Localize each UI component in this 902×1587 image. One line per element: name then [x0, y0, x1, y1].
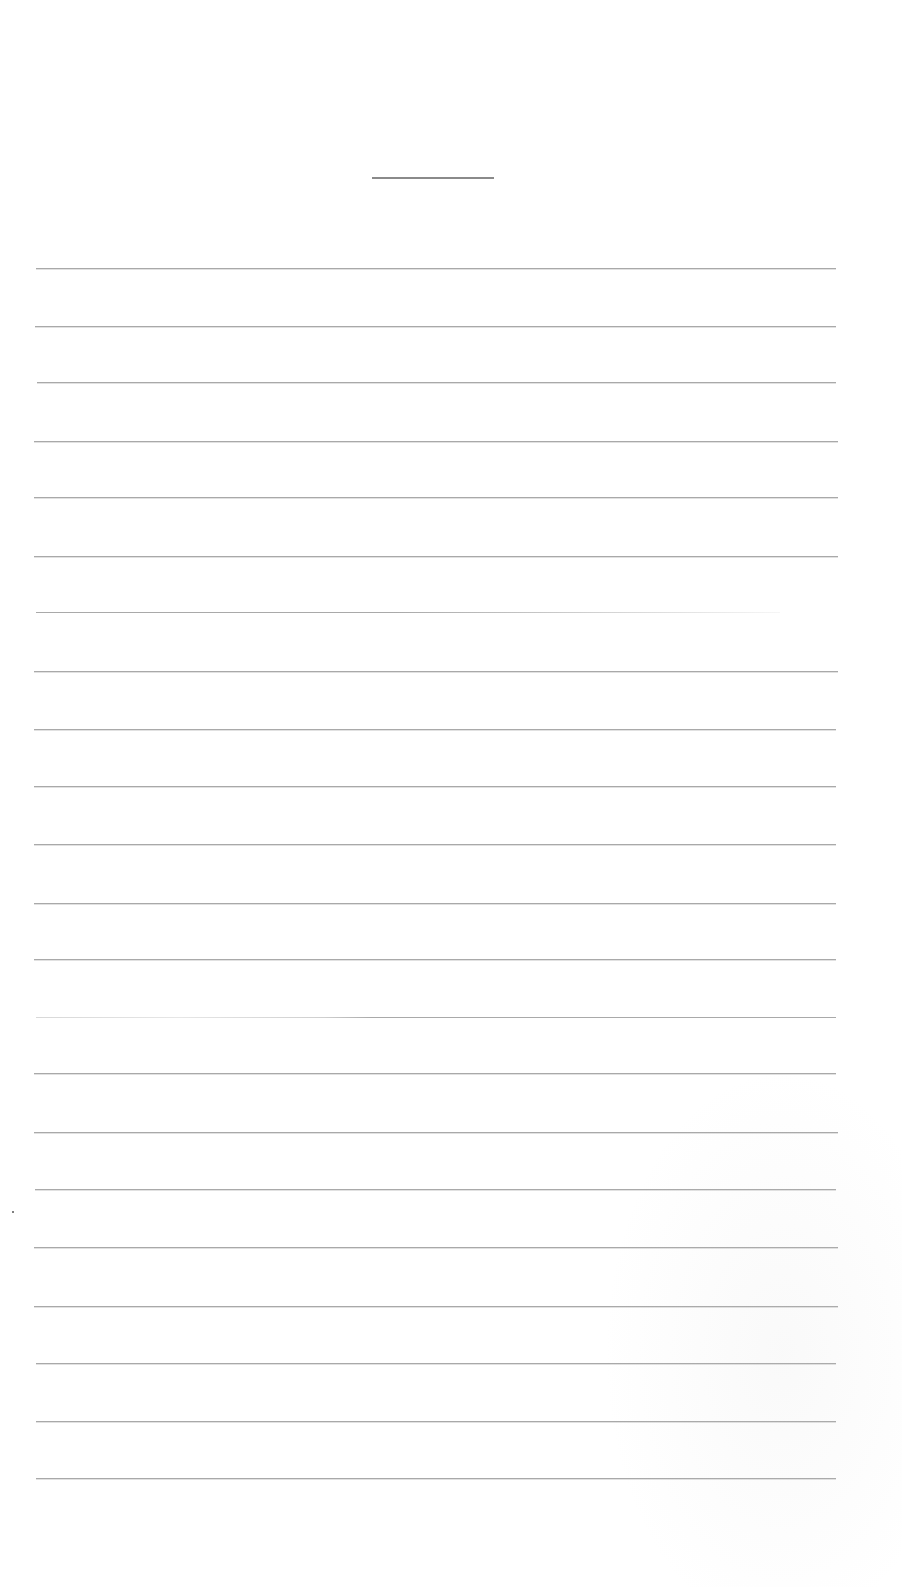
writing-line [34, 1247, 838, 1248]
writing-line [36, 1017, 836, 1018]
stray-mark [12, 1211, 14, 1213]
writing-line [34, 1073, 836, 1074]
lined-paper-page [0, 0, 902, 1587]
writing-line [36, 1478, 836, 1479]
writing-line [36, 268, 836, 269]
writing-line [36, 1363, 836, 1364]
writing-line [34, 1306, 838, 1307]
writing-line [34, 729, 836, 730]
writing-line [35, 1189, 836, 1190]
writing-line [34, 497, 838, 498]
writing-line [34, 671, 838, 672]
writing-line [37, 382, 836, 383]
writing-line [34, 1132, 838, 1133]
writing-line [36, 612, 780, 613]
writing-line [34, 903, 836, 904]
writing-line [34, 786, 836, 787]
writing-line [34, 959, 836, 960]
writing-line [35, 326, 836, 327]
writing-line [36, 1421, 836, 1422]
writing-line [34, 844, 836, 845]
title-rule [372, 177, 494, 179]
writing-line [34, 441, 838, 442]
show-through-texture [602, 1067, 902, 1587]
writing-line [34, 556, 838, 557]
